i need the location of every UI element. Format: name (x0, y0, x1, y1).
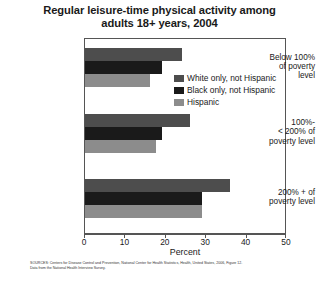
x-axis-title: Percent (84, 247, 286, 257)
category-label-line: of poverty (241, 62, 315, 71)
legend-label-black: Black only, not Hispanic (187, 86, 275, 95)
category-label-line: poverty level (241, 197, 315, 206)
bar (85, 205, 202, 218)
category-label-line: < 200% of (241, 127, 315, 136)
legend-swatch-white (174, 75, 184, 82)
chart-title-line-2: adults 18+ years, 2004 (6, 17, 313, 30)
bar (85, 61, 162, 74)
x-axis-tick-label: 30 (201, 237, 210, 247)
category-label: Below 100%of povertylevel (241, 53, 319, 81)
bar (85, 179, 230, 192)
legend-swatch-black (174, 87, 184, 94)
legend-label-hispanic: Hispanic (187, 98, 219, 107)
x-axis-tick-label: 0 (82, 237, 87, 247)
footnote-line-2: Data from the National Health Interview … (30, 266, 315, 271)
category-label-line: poverty level (241, 137, 315, 146)
category-label-line: Below 100% (241, 53, 315, 62)
chart-figure: Regular leisure-time physical activity a… (0, 0, 319, 283)
x-axis-tick-label: 20 (160, 237, 169, 247)
chart-title: Regular leisure-time physical activity a… (6, 4, 313, 30)
legend-swatch-hispanic (174, 99, 184, 106)
bar (85, 114, 190, 127)
bar (85, 74, 150, 87)
chart-title-line-1: Regular leisure-time physical activity a… (6, 4, 313, 17)
bar (85, 48, 182, 61)
x-axis-tick-label: 50 (281, 237, 290, 247)
category-label-line: 100%- (241, 118, 315, 127)
bar (85, 192, 202, 205)
category-label-line: level (241, 71, 315, 80)
source-footnote: SOURCES: Centers for Disease Control and… (30, 261, 315, 271)
bar (85, 127, 162, 140)
category-label: 200% + ofpoverty level (241, 188, 319, 207)
bar (85, 140, 156, 153)
x-axis-tick-label: 40 (241, 237, 250, 247)
category-label: 100%-< 200% ofpoverty level (241, 118, 319, 146)
legend-item-hispanic: Hispanic (174, 97, 276, 108)
legend-item-black: Black only, not Hispanic (174, 85, 276, 96)
category-label-line: 200% + of (241, 188, 315, 197)
x-axis-tick-label: 10 (120, 237, 129, 247)
x-axis-line (84, 234, 286, 235)
